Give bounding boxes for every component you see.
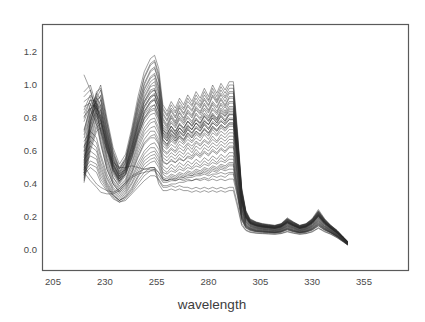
chart-background <box>0 0 425 322</box>
y-tick-label: 0.6 <box>24 145 37 156</box>
x-axis-title: wavelength <box>177 297 246 312</box>
y-tick-label: 0.8 <box>24 112 37 123</box>
y-tick-label: 0.4 <box>24 178 37 189</box>
x-tick-label: 230 <box>97 276 113 287</box>
x-tick-label: 255 <box>149 276 165 287</box>
y-tick-label: 0.0 <box>24 244 37 255</box>
x-tick-label: 355 <box>356 276 372 287</box>
y-tick-label: 1.0 <box>24 79 37 90</box>
x-tick-label: 205 <box>45 276 61 287</box>
y-tick-label: 0.2 <box>24 211 37 222</box>
x-tick-label: 305 <box>252 276 268 287</box>
x-tick-label: 330 <box>304 276 320 287</box>
chart-canvas: 0.00.20.40.60.81.01.2 205230255280305330… <box>0 0 425 322</box>
y-tick-label: 1.2 <box>24 46 37 57</box>
x-tick-label: 280 <box>201 276 217 287</box>
spectral-plot-figure: 0.00.20.40.60.81.01.2 205230255280305330… <box>0 0 425 322</box>
